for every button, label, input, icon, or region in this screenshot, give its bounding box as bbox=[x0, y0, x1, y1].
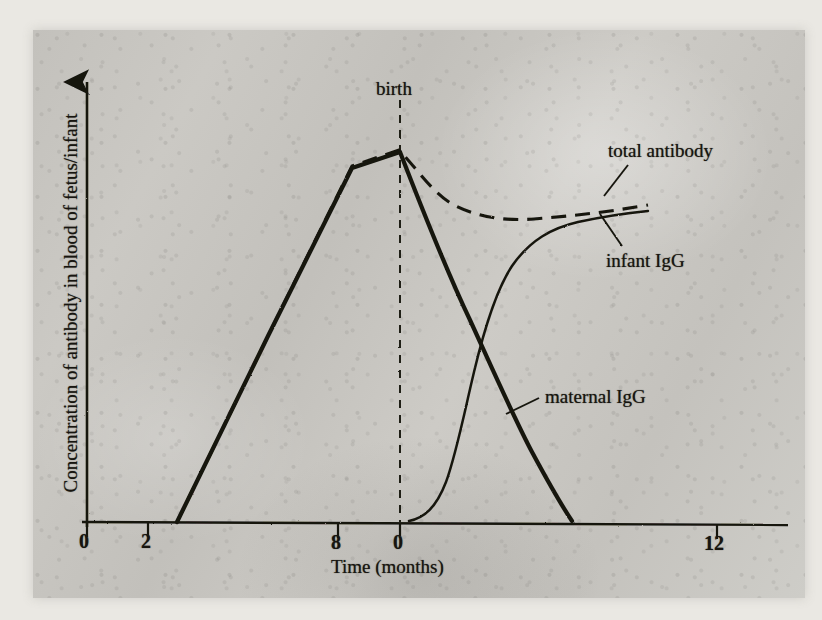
birth-annotation: birth bbox=[376, 78, 412, 100]
x-tick-label-0a: 0 bbox=[79, 530, 89, 553]
x-tick-label-12: 12 bbox=[704, 532, 724, 555]
x-tick-label-0b: 0 bbox=[393, 531, 403, 554]
photocopy-grain bbox=[33, 30, 805, 598]
maternal-igg-annotation: maternal IgG bbox=[545, 386, 646, 408]
infant-igg-annotation: infant IgG bbox=[606, 250, 685, 272]
total-antibody-annotation: total antibody bbox=[608, 140, 713, 162]
scanned-page: Concentration of antibody in blood of fe… bbox=[0, 0, 822, 620]
y-axis-title: Concentration of antibody in blood of fe… bbox=[60, 83, 82, 523]
x-tick-label-8: 8 bbox=[331, 531, 341, 554]
x-axis-title: Time (months) bbox=[331, 556, 444, 578]
x-tick-label-2: 2 bbox=[141, 530, 151, 553]
figure-scan-region bbox=[33, 30, 805, 598]
